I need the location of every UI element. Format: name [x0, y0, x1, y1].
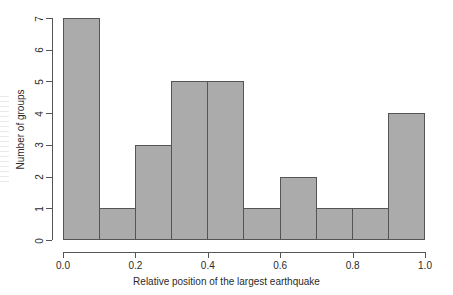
histogram-bar — [280, 177, 317, 240]
y-tick-label-2: 2 — [35, 174, 45, 180]
histogram-figure: Number of groups 0 1 2 3 4 5 6 7 — [0, 0, 453, 295]
histogram-bar — [352, 208, 389, 240]
histogram-bar — [63, 18, 100, 240]
histogram-bar — [388, 113, 425, 240]
x-tick-label-3: 0.6 — [273, 261, 287, 271]
x-tick-0 — [63, 252, 64, 258]
y-axis-title-label: Number of groups — [15, 89, 26, 169]
x-tick-4 — [353, 252, 354, 258]
x-tick-3 — [280, 252, 281, 258]
y-tick-4: 4 — [46, 113, 52, 114]
histogram-bar — [171, 81, 208, 240]
y-tick-label-7: 7 — [35, 16, 45, 22]
y-tick-label-5: 5 — [35, 79, 45, 85]
x-axis-title: Relative position of the largest earthqu… — [0, 276, 453, 287]
x-tick-1 — [135, 252, 136, 258]
histogram-bar — [243, 208, 280, 240]
y-tick-3: 3 — [46, 145, 52, 146]
y-tick-7: 7 — [46, 18, 52, 19]
scan-artifact-edge — [0, 96, 9, 182]
y-tick-label-6: 6 — [35, 47, 45, 53]
y-tick-label-4: 4 — [35, 111, 45, 117]
y-tick-label-1: 1 — [35, 206, 45, 212]
y-tick-label-0: 0 — [35, 238, 45, 244]
y-axis-line — [52, 18, 53, 240]
x-tick-label-0: 0.0 — [56, 261, 70, 271]
histogram-bar — [99, 208, 136, 240]
x-axis-line — [63, 252, 425, 253]
x-tick-label-1: 0.2 — [128, 261, 142, 271]
x-tick-2 — [208, 252, 209, 258]
y-tick-6: 6 — [46, 50, 52, 51]
histogram-bar — [316, 208, 353, 240]
plot-area — [63, 18, 425, 240]
x-tick-label-2: 0.4 — [201, 261, 215, 271]
histogram-bar — [207, 81, 244, 240]
y-axis-title: Number of groups — [12, 0, 28, 258]
x-tick-label-4: 0.8 — [346, 261, 360, 271]
x-tick-5 — [425, 252, 426, 258]
x-tick-label-5: 1.0 — [418, 261, 432, 271]
histogram-bars — [63, 18, 425, 240]
histogram-bar — [135, 145, 172, 240]
y-tick-0: 0 — [46, 240, 52, 241]
y-tick-label-3: 3 — [35, 143, 45, 149]
y-tick-1: 1 — [46, 208, 52, 209]
y-tick-5: 5 — [46, 81, 52, 82]
y-tick-2: 2 — [46, 177, 52, 178]
